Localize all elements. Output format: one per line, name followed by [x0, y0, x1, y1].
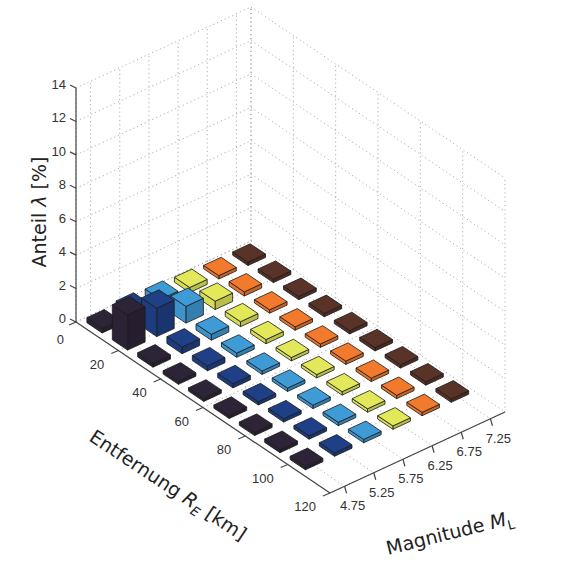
- bar: [258, 261, 291, 283]
- z-tick: [70, 252, 76, 255]
- bar: [381, 377, 414, 399]
- grid-line-side-z: [251, 40, 505, 211]
- x-tick-label: 120: [294, 499, 316, 514]
- grid-lines: [76, 7, 505, 493]
- bar: [192, 347, 225, 370]
- z-tick: [70, 152, 76, 155]
- y-axis-title: Magnitude ML: [384, 506, 518, 563]
- z-axis-title: Anteil λ [%]: [28, 157, 50, 268]
- bar: [298, 387, 331, 409]
- bar: [254, 292, 287, 314]
- y-tick-label: 6.25: [427, 458, 452, 473]
- bar: [251, 321, 284, 344]
- bar: [229, 274, 262, 297]
- bar: [218, 365, 251, 388]
- z-tick-label: 8: [59, 177, 66, 192]
- bar: [334, 312, 367, 334]
- grid-line-back-z: [76, 174, 251, 255]
- bar: [204, 257, 237, 279]
- bar: [200, 283, 233, 310]
- x-tick: [111, 351, 118, 354]
- y-tick-label: 4.75: [340, 498, 365, 513]
- bar: [348, 421, 381, 443]
- x-tick: [323, 493, 330, 496]
- bar: [331, 343, 364, 365]
- x-tick: [238, 436, 245, 439]
- bar: [189, 380, 222, 402]
- z-tick: [70, 85, 76, 88]
- z-tick-label: 10: [52, 144, 66, 159]
- x-tick: [69, 322, 76, 325]
- z-tick-label: 4: [59, 244, 66, 259]
- bar: [163, 363, 196, 385]
- bar: [385, 346, 418, 368]
- y-tick: [345, 486, 347, 493]
- bar: [174, 269, 207, 292]
- bar3d-chart: 024681012140204060801001204.755.255.756.…: [0, 0, 561, 573]
- bar: [305, 326, 338, 348]
- grid-line-side-z: [251, 7, 505, 178]
- bar: [290, 448, 323, 470]
- y-tick: [374, 473, 376, 480]
- y-tick: [490, 419, 492, 426]
- bar: [247, 353, 280, 375]
- bar: [196, 316, 229, 340]
- bar: [142, 290, 175, 337]
- x-tick-label: 0: [57, 332, 64, 347]
- grid-line-floor-r: [203, 327, 378, 408]
- bar: [280, 309, 313, 331]
- grid-line-back-z: [76, 107, 251, 188]
- z-tick: [70, 185, 76, 188]
- y-tick-label: 6.75: [457, 444, 482, 459]
- grid-line-back-z: [76, 141, 251, 222]
- bar: [269, 400, 302, 422]
- z-tick-label: 14: [52, 77, 66, 92]
- x-tick-label: 20: [90, 357, 104, 372]
- z-tick: [70, 319, 76, 322]
- bar: [239, 414, 272, 436]
- bar: [294, 418, 327, 440]
- bar: [356, 360, 389, 382]
- y-tick: [461, 432, 463, 439]
- y-tick: [403, 459, 405, 466]
- z-tick-label: 6: [59, 211, 66, 226]
- y-tick-label: 5.25: [369, 485, 394, 500]
- z-tick-label: 12: [52, 110, 66, 125]
- x-tick: [281, 465, 288, 468]
- bar: [327, 373, 360, 395]
- x-tick: [154, 379, 161, 382]
- bar: [378, 408, 411, 430]
- x-tick-label: 100: [252, 471, 274, 486]
- z-tick-label: 0: [59, 311, 66, 326]
- x-tick-label: 60: [175, 414, 189, 429]
- z-tick: [70, 118, 76, 121]
- z-tick-label: 2: [59, 278, 66, 293]
- z-tick: [70, 219, 76, 222]
- z-tick: [70, 286, 76, 289]
- y-tick-label: 5.75: [398, 471, 423, 486]
- bar: [309, 295, 342, 317]
- bar: [407, 394, 440, 416]
- bar: [272, 370, 305, 392]
- y-tick-label: 7.25: [486, 431, 511, 446]
- x-tick-label: 40: [132, 385, 146, 400]
- x-tick-label: 80: [217, 442, 231, 457]
- bar: [167, 329, 200, 354]
- bar: [352, 391, 385, 413]
- bar: [276, 339, 309, 361]
- grid-line-back-z: [76, 40, 251, 121]
- bar: [225, 303, 258, 326]
- bar: [138, 345, 171, 368]
- y-tick: [432, 446, 434, 453]
- x-tick: [196, 408, 203, 411]
- bar: [243, 383, 276, 405]
- bar: [233, 244, 266, 266]
- bar: [411, 364, 444, 386]
- grid-line-back-z: [76, 7, 251, 88]
- bar: [265, 431, 298, 453]
- grid-line-back-z: [76, 74, 251, 155]
- bar: [112, 297, 145, 351]
- bar: [323, 404, 356, 426]
- bar: [319, 435, 352, 457]
- bars: [87, 244, 469, 470]
